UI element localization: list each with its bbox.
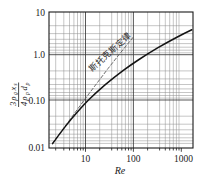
x-axis-title: Re bbox=[114, 165, 126, 176]
numerator-x-symbol: x bbox=[8, 87, 18, 92]
denominator-rho-subscript: p bbox=[24, 92, 30, 96]
numerator-coefficient: 3 bbox=[8, 102, 18, 107]
denominator-rho-symbol: ρ bbox=[19, 96, 29, 101]
x-tick-label-100: 100 bbox=[126, 154, 141, 164]
x-tick-label-10: 10 bbox=[81, 154, 91, 164]
y-tick-label-0-01: 0.01 bbox=[28, 143, 45, 153]
denominator-d-subscript: p bbox=[24, 83, 30, 87]
x-tick-label-1000: 1000 bbox=[174, 154, 193, 164]
y-tick-label-10: 10 bbox=[36, 8, 46, 18]
y-tick-label-1: 1.0 bbox=[33, 50, 45, 60]
log-log-chart: 10 1.0 0.10 0.01 10 100 1000 Re 3 ρ g x … bbox=[0, 0, 202, 177]
numerator-rho-subscript: g bbox=[12, 92, 18, 95]
chart-figure: 10 1.0 0.10 0.01 10 100 1000 Re 3 ρ g x … bbox=[0, 0, 202, 177]
numerator-rho-symbol: ρ bbox=[8, 96, 18, 101]
y-tick-label-0-10: 0.10 bbox=[28, 96, 45, 106]
